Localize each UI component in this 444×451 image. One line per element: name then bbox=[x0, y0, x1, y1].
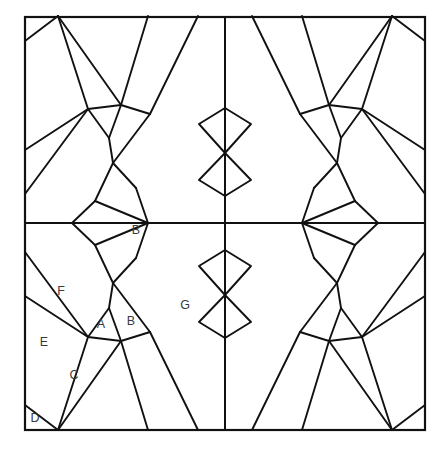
edge-tl-10 bbox=[109, 105, 121, 138]
edge-bl-11 bbox=[121, 332, 150, 341]
edge-tl-8 bbox=[72, 201, 95, 223]
edge-br-16 bbox=[314, 258, 337, 283]
quadrant-top-left bbox=[25, 16, 198, 223]
edge-br-3 bbox=[362, 337, 392, 430]
edge-tl-5 bbox=[88, 109, 109, 138]
edge-br-1 bbox=[362, 252, 425, 337]
edge-br-14 bbox=[329, 337, 362, 341]
tile-edges-tl bbox=[25, 16, 198, 223]
edge-tr-8 bbox=[355, 201, 378, 223]
edge-bl-12 bbox=[121, 341, 148, 430]
edge-tr-4 bbox=[392, 16, 425, 41]
region-label-b-lower: B bbox=[127, 314, 135, 328]
edge-tr-18 bbox=[329, 16, 392, 105]
edge-tr-7 bbox=[337, 163, 355, 201]
edge-tr-3 bbox=[362, 16, 392, 109]
edge-tl-2 bbox=[25, 109, 88, 150]
edge-br-6 bbox=[337, 283, 341, 308]
edge-br-15 bbox=[302, 223, 355, 245]
edge-br-7 bbox=[337, 245, 355, 283]
region-label-e: E bbox=[40, 335, 48, 349]
edge-bl-2 bbox=[25, 296, 88, 337]
region-label-f: F bbox=[57, 284, 65, 298]
quadrant-bottom-right bbox=[252, 223, 425, 430]
edge-tr-14 bbox=[329, 105, 362, 109]
quadrant-bottom-left bbox=[25, 223, 198, 430]
edge-tr-1 bbox=[362, 109, 425, 194]
edge-bl-10 bbox=[109, 308, 121, 341]
edge-tl-16 bbox=[113, 163, 136, 188]
edge-tr-12 bbox=[302, 16, 329, 105]
tiling-canvas: A B C D E F G B bbox=[0, 0, 444, 451]
tile-edges-br bbox=[252, 223, 425, 430]
zigzag-upper-left bbox=[199, 108, 225, 196]
region-label-b-upper: B bbox=[132, 223, 140, 237]
edge-tr-5 bbox=[341, 109, 362, 138]
edge-bl-7 bbox=[95, 245, 113, 283]
region-label-a: A bbox=[97, 317, 106, 331]
quadrant-dividers bbox=[25, 17, 425, 430]
edge-tl-18 bbox=[58, 16, 121, 105]
zigzag-upper-right bbox=[225, 108, 251, 196]
edge-bl-6 bbox=[109, 283, 113, 308]
edge-tr-9 bbox=[300, 114, 337, 163]
tile-edges-tr bbox=[252, 16, 425, 223]
edge-tl-11 bbox=[121, 105, 150, 114]
edge-tr-16 bbox=[314, 163, 337, 188]
zigzag-lower-right bbox=[225, 250, 251, 338]
edge-tr-13 bbox=[252, 16, 300, 114]
edge-bl-8 bbox=[72, 223, 95, 245]
edge-tl-14 bbox=[88, 105, 121, 109]
edge-tl-15 bbox=[95, 201, 148, 223]
edge-br-10 bbox=[329, 308, 341, 341]
region-label-d: D bbox=[30, 411, 39, 425]
edge-br-5 bbox=[341, 308, 362, 337]
region-label-c: C bbox=[69, 368, 78, 382]
edge-tl-12 bbox=[121, 16, 148, 105]
edge-bl-14 bbox=[88, 337, 121, 341]
edge-tr-10 bbox=[329, 105, 341, 138]
edge-bl-18 bbox=[58, 341, 121, 430]
edge-br-11 bbox=[300, 332, 329, 341]
edge-bl-16 bbox=[113, 258, 136, 283]
edge-tr-11 bbox=[300, 105, 329, 114]
edge-tl-9 bbox=[113, 114, 150, 163]
edge-bl-3 bbox=[58, 337, 88, 430]
edge-tl-4 bbox=[25, 16, 58, 41]
edge-tl-6 bbox=[109, 138, 113, 163]
tile-edges-bl bbox=[25, 223, 198, 430]
edge-tl-13 bbox=[150, 16, 198, 114]
zigzag-lower-left bbox=[199, 250, 225, 338]
edge-br-4 bbox=[392, 405, 425, 430]
edge-br-12 bbox=[302, 341, 329, 430]
edge-tl-1 bbox=[25, 109, 88, 194]
region-labels: A B C D E F G B bbox=[30, 223, 189, 425]
edge-tl-3 bbox=[58, 16, 88, 109]
edge-tr-15 bbox=[302, 201, 355, 223]
edge-br-2 bbox=[362, 296, 425, 337]
edge-bl-13 bbox=[150, 332, 198, 430]
edge-br-9 bbox=[300, 283, 337, 332]
edge-tl-7 bbox=[95, 163, 113, 201]
tiling-figure: A B C D E F G B bbox=[0, 0, 444, 451]
edge-tr-6 bbox=[337, 138, 341, 163]
edge-br-18 bbox=[329, 341, 392, 430]
edge-tr-2 bbox=[362, 109, 425, 150]
edge-br-13 bbox=[252, 332, 300, 430]
region-label-g: G bbox=[180, 298, 190, 312]
quadrant-top-right bbox=[252, 16, 425, 223]
edge-br-8 bbox=[355, 223, 378, 245]
